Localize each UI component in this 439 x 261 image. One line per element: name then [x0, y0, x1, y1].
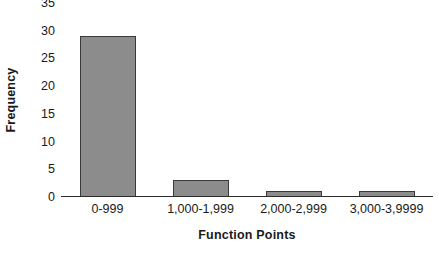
y-tick-label: 10 — [41, 135, 55, 148]
y-tick-label: 35 — [41, 0, 55, 9]
x-tick-label: 0-999 — [61, 200, 154, 220]
bar-slot — [247, 3, 340, 197]
bar — [80, 36, 136, 197]
y-axis-title-label: Frequency — [3, 67, 17, 132]
x-tick-label: 1,000-1,999 — [154, 200, 247, 220]
bar-slot — [61, 3, 154, 197]
x-axis-title: Function Points — [61, 228, 433, 242]
bar-slot — [340, 3, 433, 197]
x-tick-label: 3,000-3,9999 — [340, 200, 433, 220]
y-axis-title: Frequency — [0, 0, 20, 200]
bar-slot — [154, 3, 247, 197]
y-tick-label: 0 — [48, 191, 55, 204]
y-tick-label: 15 — [41, 108, 55, 121]
bar — [173, 180, 229, 197]
x-tick-label: 2,000-2,999 — [247, 200, 340, 220]
plot-area — [61, 3, 433, 197]
x-axis-line — [61, 196, 433, 197]
y-tick-label: 30 — [41, 24, 55, 37]
bar-chart: Frequency 35 30 25 20 15 10 5 0 0-99 — [0, 0, 439, 261]
y-tick-label: 25 — [41, 52, 55, 65]
x-axis-tick-labels: 0-999 1,000-1,999 2,000-2,999 3,000-3,99… — [61, 200, 433, 220]
bars-layer — [61, 3, 433, 197]
y-tick-label: 20 — [41, 80, 55, 93]
y-tick-label: 5 — [48, 163, 55, 176]
y-axis-tick-labels: 35 30 25 20 15 10 5 0 — [22, 0, 58, 200]
